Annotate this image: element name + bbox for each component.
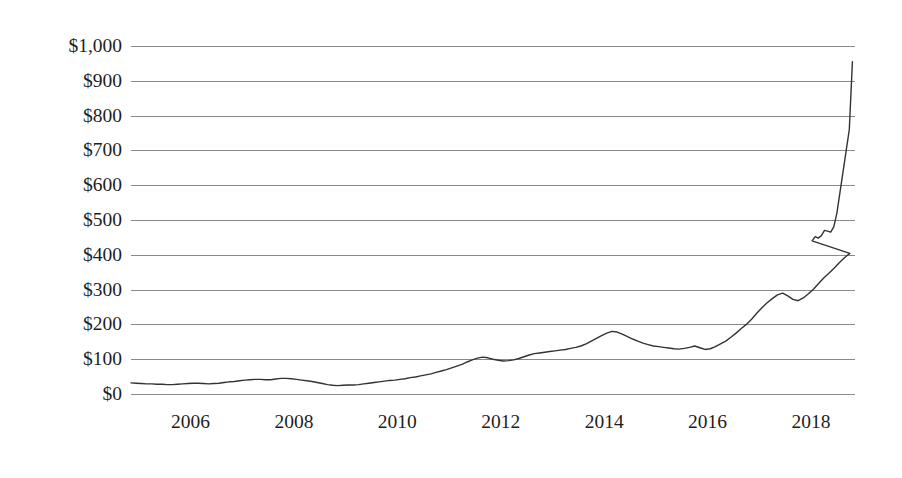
y-tick-label-900: $900 [83, 71, 122, 91]
y-tick-label-1000: $1,000 [68, 36, 122, 56]
x-tick-label-2008: 2008 [254, 412, 334, 432]
x-tick-label-2018: 2018 [771, 412, 851, 432]
y-tick-label-800: $800 [83, 106, 122, 126]
data-series-group [131, 62, 852, 386]
y-tick-label-700: $700 [83, 140, 122, 160]
y-tick-label-300: $300 [83, 280, 122, 300]
y-tick-label-600: $600 [83, 175, 122, 195]
y-tick-label-100: $100 [83, 349, 122, 369]
x-tick-label-2012: 2012 [461, 412, 541, 432]
x-tick-label-2006: 2006 [150, 412, 230, 432]
x-tick-label-2016: 2016 [668, 412, 748, 432]
y-tick-label-500: $500 [83, 210, 122, 230]
y-tick-label-400: $400 [83, 245, 122, 265]
gridline-group [131, 47, 855, 395]
y-tick-label-200: $200 [83, 314, 122, 334]
x-tick-label-2010: 2010 [357, 412, 437, 432]
y-tick-label-0: $0 [103, 384, 123, 404]
line-chart-plot [0, 0, 902, 478]
x-tick-label-2014: 2014 [564, 412, 644, 432]
chart-container: $0$100$200$300$400$500$600$700$800$900$1… [0, 0, 902, 478]
data-line-price [131, 62, 852, 386]
